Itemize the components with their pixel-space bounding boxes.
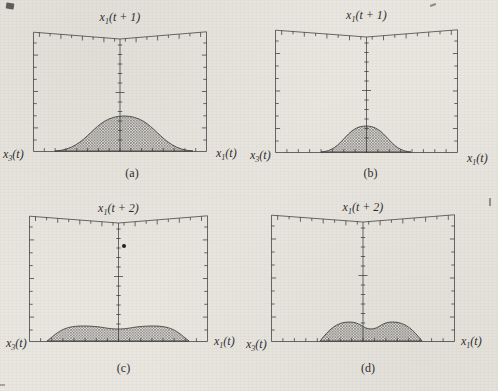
plot-area <box>271 214 455 342</box>
axis-arg: (t) <box>476 151 487 165</box>
subplot-caption: (d) <box>276 361 460 375</box>
subplot-caption: (c) <box>34 361 213 375</box>
stray-data-point <box>122 244 126 248</box>
plot-title: x1(t + 1) <box>33 10 207 24</box>
axis-arg: (t) <box>15 336 26 350</box>
subplot-c: x1(t + 2) x3(t) x1(t) (c) <box>0 196 249 391</box>
axis-label-right: x1(t) <box>461 334 482 348</box>
subplot-d: x1(t + 2) x3(t) x1(t) (d) <box>249 196 498 391</box>
axis-label-left: x3(t) <box>250 148 271 162</box>
axis-arg: (t) <box>12 147 23 161</box>
axes-box <box>272 215 455 342</box>
axis-arg: (t) <box>470 334 481 348</box>
axes-box <box>34 32 207 152</box>
subplot-b: x1(t + 1) x3(t) x1(t) (b) <box>249 0 498 196</box>
axis-label-left: x3(t) <box>246 337 267 351</box>
mesh-surface <box>320 322 422 341</box>
title-arg: (t + 1) <box>109 10 140 24</box>
plot-title: x1(t + 2) <box>29 201 208 215</box>
axis-label-right: x1(t) <box>467 151 488 165</box>
mesh-surface <box>321 126 411 152</box>
plot-area <box>29 215 208 342</box>
subplot-caption: (a) <box>45 166 219 180</box>
subplot-a: x1(t + 1) x3(t) x1(t) (a) <box>0 0 249 196</box>
plot-area <box>33 31 207 152</box>
axis-arg: (t) <box>225 146 236 160</box>
plot-title: x1(t + 2) <box>271 200 455 214</box>
axis-arg: (t) <box>255 337 266 351</box>
title-arg: (t + 1) <box>355 8 386 22</box>
axis-arg: (t) <box>259 148 270 162</box>
subplot-caption: (b) <box>279 166 462 180</box>
axis-label-right: x1(t) <box>216 146 237 160</box>
mesh-surface <box>55 116 193 151</box>
axes-box <box>30 216 208 342</box>
axis-arg: (t) <box>223 334 234 348</box>
axis-label-left: x3(t) <box>3 147 24 161</box>
axis-label-left: x3(t) <box>6 336 27 350</box>
plot-title: x1(t + 1) <box>275 8 458 22</box>
axes-box <box>276 30 458 153</box>
title-arg: (t + 2) <box>107 201 138 215</box>
axis-label-right: x1(t) <box>214 334 235 348</box>
plot-area <box>275 29 458 153</box>
title-arg: (t + 2) <box>352 200 383 214</box>
figure-canvas: x1(t + 1) x3(t) x1(t) (a) x1(t + 1) x3(t… <box>0 0 498 391</box>
mesh-surface <box>47 326 189 341</box>
